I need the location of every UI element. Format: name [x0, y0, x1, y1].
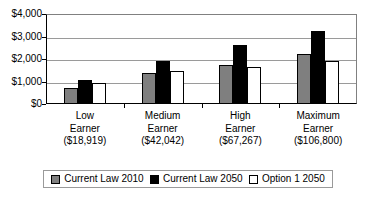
- bar-1-0: [78, 80, 92, 104]
- y-axis: $0$1,000$2,000$3,000$4,000: [0, 0, 42, 199]
- bar-1-3: [311, 31, 325, 104]
- x-tick-mark: [202, 104, 203, 108]
- x-category-label-1: MediumEarner($42,042): [124, 110, 202, 148]
- legend-label: Current Law 2010: [64, 174, 144, 184]
- y-tick-label: $4,000: [11, 9, 42, 19]
- bar-2-2: [247, 67, 261, 104]
- x-tick-mark: [124, 104, 125, 108]
- x-label-line: ($67,267): [202, 135, 280, 148]
- legend-label: Option 1 2050: [262, 174, 325, 184]
- legend-item-2[interactable]: Option 1 2050: [249, 174, 325, 184]
- x-label-line: Earner: [202, 123, 280, 136]
- y-tick-mark: [42, 37, 46, 38]
- y-tick-label: $1,000: [11, 77, 42, 87]
- bar-0-1: [142, 73, 156, 105]
- y-tick-label: $0: [31, 99, 42, 109]
- bar-chart: $0$1,000$2,000$3,000$4,000 LowEarner($18…: [0, 0, 376, 199]
- bar-1-1: [156, 61, 170, 104]
- bar-2-1: [170, 71, 184, 104]
- bar-0-2: [219, 65, 233, 104]
- x-category-label-3: MaximumEarner($106,800): [279, 110, 357, 148]
- legend-swatch-icon: [150, 175, 159, 184]
- bar-2-3: [325, 61, 339, 104]
- bar-0-3: [297, 54, 311, 104]
- x-label-line: Earner: [279, 123, 357, 136]
- bar-0-0: [64, 88, 78, 104]
- x-label-line: Medium: [124, 110, 202, 123]
- y-tick-mark: [42, 104, 46, 105]
- legend-item-1[interactable]: Current Law 2050: [150, 174, 243, 184]
- y-tick-mark: [42, 59, 46, 60]
- legend-item-0[interactable]: Current Law 2010: [51, 174, 144, 184]
- x-label-line: Earner: [46, 123, 124, 136]
- x-label-line: Low: [46, 110, 124, 123]
- legend-swatch-icon: [51, 175, 60, 184]
- x-label-line: High: [202, 110, 280, 123]
- legend-swatch-icon: [249, 175, 258, 184]
- chart-legend: Current Law 2010Current Law 2050Option 1…: [43, 170, 333, 188]
- y-tick-label: $2,000: [11, 54, 42, 64]
- legend-label: Current Law 2050: [163, 174, 243, 184]
- x-label-line: ($42,042): [124, 135, 202, 148]
- x-tick-mark: [279, 104, 280, 108]
- y-tick-mark: [42, 14, 46, 15]
- bar-1-2: [233, 45, 247, 104]
- x-label-line: ($18,919): [46, 135, 124, 148]
- x-category-label-0: LowEarner($18,919): [46, 110, 124, 148]
- x-label-line: Maximum: [279, 110, 357, 123]
- y-tick-mark: [42, 82, 46, 83]
- gridline: [47, 38, 356, 39]
- x-label-line: ($106,800): [279, 135, 357, 148]
- bar-2-0: [92, 83, 106, 104]
- x-label-line: Earner: [124, 123, 202, 136]
- x-category-label-2: HighEarner($67,267): [202, 110, 280, 148]
- y-tick-label: $3,000: [11, 32, 42, 42]
